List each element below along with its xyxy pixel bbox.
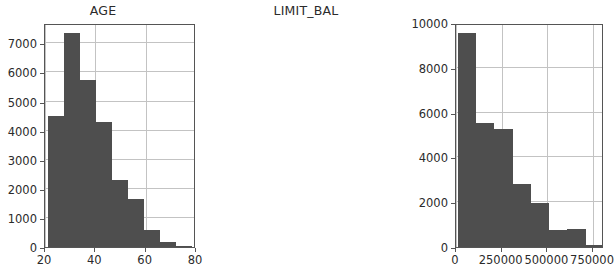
histogram-bar <box>531 203 549 247</box>
y-axis-tick-label: 6000 <box>0 66 37 80</box>
y-axis-tick-label: 6000 <box>206 107 448 121</box>
y-axis-tick-label: 4000 <box>206 151 448 165</box>
subplot-limit-bal-title: LIMIT_BAL <box>203 3 409 18</box>
histogram-bar <box>458 33 476 247</box>
x-axis-tick <box>592 248 593 252</box>
histogram-bar <box>513 184 531 247</box>
subplot-limit-bal: LIMIT_BAL 020004000600080001000002500005… <box>206 0 412 279</box>
axes-limit-bal <box>455 24 603 248</box>
y-axis-tick-label: 2000 <box>206 196 448 210</box>
y-axis-tick <box>40 73 44 74</box>
y-axis-tick <box>451 114 455 115</box>
y-axis-tick-label: 3000 <box>0 154 37 168</box>
y-axis-tick-label: 1000 <box>0 212 37 226</box>
y-axis-tick-label: 5000 <box>0 96 37 110</box>
y-axis-tick <box>40 190 44 191</box>
histogram-bar <box>494 129 512 247</box>
gridline-vertical <box>593 25 594 247</box>
axes-age <box>44 24 195 248</box>
x-axis-tick <box>546 248 547 252</box>
histogram-bar <box>80 80 96 247</box>
gridline-vertical <box>146 25 147 247</box>
x-axis-tick-label: 80 <box>188 253 203 267</box>
y-axis-tick <box>40 103 44 104</box>
x-axis-tick-label: 750000 <box>570 253 614 267</box>
x-axis-tick-label: 20 <box>37 253 52 267</box>
y-axis-tick <box>451 24 455 25</box>
x-axis-tick <box>195 248 196 252</box>
histogram-bar <box>476 123 494 247</box>
histogram-bar <box>112 180 128 247</box>
y-axis-tick-label: 8000 <box>206 62 448 76</box>
x-axis-tick-label: 500000 <box>524 253 568 267</box>
histogram-bar <box>549 230 567 247</box>
y-axis-tick <box>40 132 44 133</box>
y-axis-tick-label: 0 <box>0 241 37 255</box>
x-axis-tick-label: 0 <box>451 253 458 267</box>
histogram-bar <box>96 122 112 247</box>
x-axis-tick-label: 250000 <box>479 253 523 267</box>
y-axis-tick <box>40 44 44 45</box>
y-axis-tick-label: 2000 <box>0 183 37 197</box>
y-axis-tick-label: 4000 <box>0 125 37 139</box>
x-axis-tick <box>455 248 456 252</box>
subplot-age-title: AGE <box>0 3 206 18</box>
x-axis-tick-label: 40 <box>87 253 102 267</box>
histogram-bar <box>48 116 64 247</box>
subplot-age: AGE 010002000300040005000600070002040608… <box>0 0 206 279</box>
gridline-horizontal <box>456 112 602 113</box>
histogram-bar <box>128 199 144 247</box>
histogram-bar <box>567 229 585 247</box>
y-axis-tick <box>451 203 455 204</box>
histogram-bar <box>160 242 176 247</box>
histogram-bar <box>144 230 160 247</box>
histogram-bar <box>586 245 603 247</box>
gridline-vertical <box>45 25 46 247</box>
y-axis-tick <box>40 219 44 220</box>
gridline-horizontal <box>456 67 602 68</box>
y-axis-tick-label: 10000 <box>206 17 448 31</box>
y-axis-tick <box>451 158 455 159</box>
y-axis-tick <box>40 161 44 162</box>
y-axis-tick-label: 7000 <box>0 37 37 51</box>
x-axis-tick <box>94 248 95 252</box>
histogram-bar <box>176 246 192 247</box>
y-axis-tick <box>451 69 455 70</box>
histogram-bar <box>64 33 80 247</box>
x-axis-tick <box>44 248 45 252</box>
x-axis-tick <box>145 248 146 252</box>
y-axis-tick-label: 0 <box>206 241 448 255</box>
x-axis-tick-label: 60 <box>137 253 152 267</box>
x-axis-tick <box>501 248 502 252</box>
